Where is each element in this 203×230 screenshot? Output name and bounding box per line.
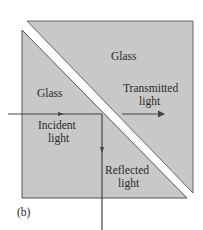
- incident-label-line1: Incident: [38, 119, 76, 131]
- reflected-label-line1: Reflected: [105, 164, 149, 176]
- panel-label: (b): [17, 206, 31, 219]
- reflected-label-line2: light: [118, 177, 140, 190]
- transmitted-label-line2: light: [139, 95, 161, 108]
- upper-glass-label: Glass: [111, 50, 137, 62]
- beam-splitter-diagram: Glass Glass Transmitted light Incident l…: [0, 0, 203, 230]
- incident-label-line2: light: [48, 132, 70, 145]
- transmitted-label-line1: Transmitted: [123, 82, 178, 94]
- lower-glass-label: Glass: [37, 87, 63, 99]
